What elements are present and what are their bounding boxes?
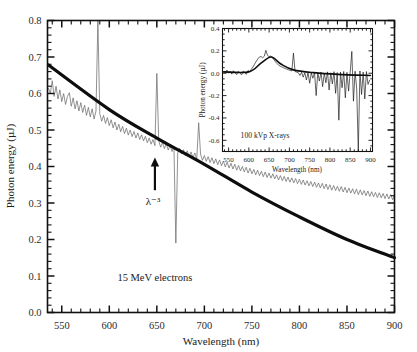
inset-x-tick-label: 600: [244, 156, 255, 164]
main-y-axis-title: Photon energy (µJ): [4, 123, 17, 208]
inset-y-tick-label: 0.4: [211, 25, 220, 33]
inset-y-tick-label: 0.2: [211, 47, 220, 55]
x-tick-label: 900: [387, 320, 403, 331]
y-tick-label: 0.2: [28, 234, 41, 245]
inset-x-axis-title: Wavelength (nm): [272, 166, 323, 174]
inset-y-tick-label: -0.6: [208, 137, 220, 145]
x-tick-label: 750: [244, 320, 260, 331]
figure-container: 550600650700750800850900 0.00.10.20.30.4…: [0, 0, 417, 352]
inset-x-tick-label: 800: [325, 156, 336, 164]
spectral-figure: 550600650700750800850900 0.00.10.20.30.4…: [0, 0, 417, 352]
inset-y-tick-label: -0.4: [208, 114, 220, 122]
x-tick-label: 550: [54, 320, 70, 331]
y-tick-label: 0.4: [28, 161, 42, 172]
main-x-axis-title: Wavelength (nm): [183, 335, 260, 348]
inset-x-tick-label: 850: [345, 156, 356, 164]
inset-x-tick-label: 750: [304, 156, 315, 164]
y-tick-label: 0.8: [28, 15, 41, 26]
x-tick-label: 650: [149, 320, 165, 331]
main-y-tick-labels: 0.00.10.20.30.40.50.60.70.8: [28, 15, 42, 318]
y-tick-label: 0.6: [28, 88, 41, 99]
inset-x-tick-label: 900: [365, 156, 376, 164]
inset-sample-label: 100 kVp X-rays: [241, 131, 290, 140]
y-tick-label: 0.0: [28, 307, 41, 318]
y-tick-label: 0.3: [28, 198, 41, 209]
inset-x-tick-label: 650: [264, 156, 275, 164]
inset-x-tick-label: 700: [284, 156, 295, 164]
x-tick-label: 700: [196, 320, 212, 331]
inset-plot: 550600650700750800850900 0.40.20.0-0.2-0…: [199, 25, 376, 174]
main-sample-label: 15 MeV electrons: [117, 272, 192, 283]
x-tick-label: 850: [339, 320, 355, 331]
inset-y-tick-label: -0.2: [208, 92, 220, 100]
power-law-label: λ⁻³: [146, 195, 161, 207]
inset-y-axis-title: Photon energy (µJ): [199, 62, 207, 118]
inset-x-tick-label: 550: [223, 156, 234, 164]
x-tick-label: 800: [292, 320, 308, 331]
y-tick-label: 0.7: [28, 52, 41, 63]
inset-y-tick-label: 0.0: [211, 70, 220, 78]
y-tick-label: 0.5: [28, 125, 41, 136]
y-tick-label: 0.1: [28, 271, 41, 282]
x-tick-label: 600: [101, 320, 117, 331]
